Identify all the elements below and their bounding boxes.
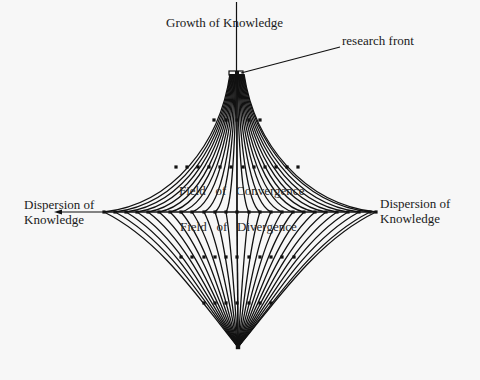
research-front-label: research front [342,33,414,48]
left-dispersion-line2: Knowledge [24,212,94,227]
right-dispersion-label: Dispersion of Knowledge [380,196,450,226]
research-front-pointer-line [241,47,340,73]
left-dispersion-line1: Dispersion of [24,197,94,212]
left-dispersion-label: Dispersion of Knowledge [24,197,94,227]
connection-curves [104,74,376,347]
field-of-convergence-label: Field of Convergence [179,183,304,198]
right-dispersion-line1: Dispersion of [380,196,450,211]
field-of-divergence-label: Field of Divergence [180,219,297,234]
right-dispersion-line2: Knowledge [380,211,450,226]
growth-of-knowledge-label: Growth of Knowledge [166,15,283,30]
diagram-canvas: Growth of Knowledge research front Dispe… [0,0,480,380]
growth-label-text: Growth of Knowledge [166,15,283,30]
